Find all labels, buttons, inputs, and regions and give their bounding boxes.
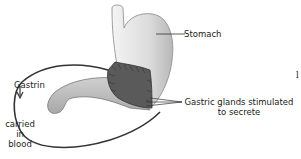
label-stomach: Stomach: [184, 29, 221, 39]
label-in: in: [3, 129, 37, 139]
label-gastric-glands: Gastric glands stimulated to secrete: [183, 97, 295, 117]
label-blood: blood: [3, 139, 37, 149]
label-gastrin: Gastrin: [14, 80, 45, 90]
gastrin-diagram: Stomach Gastric glands stimulated to sec…: [0, 0, 301, 159]
stomach-illustration: [0, 0, 301, 159]
page-edge-mark: l: [296, 70, 299, 80]
label-carried-in-blood: carried in blood: [3, 119, 37, 149]
label-gastric-glands-line2: to secrete: [183, 107, 295, 117]
label-gastric-glands-line1: Gastric glands stimulated: [183, 97, 295, 107]
label-carried: carried: [3, 119, 37, 129]
